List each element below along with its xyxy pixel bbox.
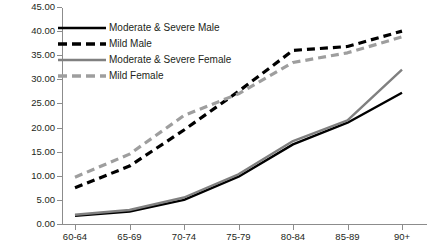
series-line (75, 93, 402, 216)
line-chart: 0.005.0010.0015.0020.0025.0030.0035.0040… (0, 0, 427, 248)
legend-label: Moderate & Severe Female (109, 54, 231, 66)
legend-swatch-icon (58, 22, 106, 34)
chart-legend: Moderate & Severe MaleMild MaleModerate … (58, 20, 268, 84)
legend-swatch-icon (58, 70, 106, 82)
legend-swatch-icon (58, 54, 106, 66)
legend-item: Moderate & Severe Male (58, 20, 268, 35)
legend-item: Moderate & Severe Female (58, 52, 268, 67)
legend-label: Mild Female (109, 70, 163, 82)
legend-swatch-icon (58, 38, 106, 50)
legend-item: Mild Female (58, 68, 268, 83)
legend-label: Moderate & Severe Male (109, 22, 220, 34)
legend-label: Mild Male (109, 38, 152, 50)
series-line (75, 70, 402, 215)
legend-item: Mild Male (58, 36, 268, 51)
